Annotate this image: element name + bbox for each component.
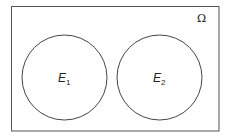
set-e1-label: E1 — [58, 71, 71, 87]
universe-label: Ω — [197, 12, 206, 25]
venn-diagram: Ω E1 E2 — [0, 0, 230, 140]
set-e2-label: E2 — [153, 71, 166, 87]
universe-rectangle — [12, 7, 220, 132]
